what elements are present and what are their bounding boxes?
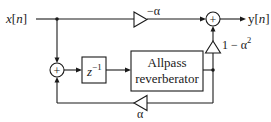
- arrow-into-left-summer-bottom: [55, 77, 60, 83]
- arrow-into-delay: [76, 68, 82, 73]
- block-diagram: x[n] −α + y[n] + z−1 Allpass reverberato…: [0, 0, 271, 122]
- output-label: y[n]: [248, 11, 270, 26]
- arrow-into-left-summer-top: [55, 58, 60, 64]
- feedforward-gain-triangle: [134, 12, 147, 27]
- input-label: x[n]: [5, 11, 27, 26]
- output-gain-label: 1 − α2: [222, 35, 251, 52]
- arrow-into-output-summer-bottom: [211, 26, 216, 32]
- output-summer-symbol: +: [210, 13, 217, 27]
- arrow-into-reverb: [125, 68, 131, 73]
- reverb-label-line2: reverberator: [135, 71, 199, 86]
- feedforward-gain-label: −α: [147, 4, 161, 18]
- reverb-label-line1: Allpass: [148, 55, 187, 70]
- output-arrow: [240, 17, 246, 22]
- output-gain-triangle: [206, 41, 221, 53]
- input-summer-symbol: +: [54, 64, 61, 78]
- arrow-into-output-summer: [200, 17, 206, 22]
- feedback-gain-label: α: [137, 107, 144, 121]
